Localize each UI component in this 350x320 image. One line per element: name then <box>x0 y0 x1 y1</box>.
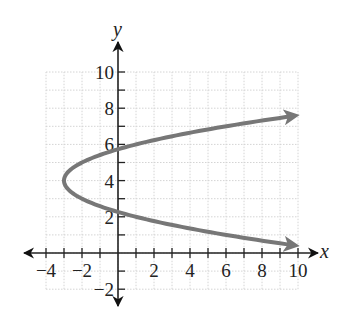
y-axis-label: y <box>111 18 122 41</box>
x-axis-label: x <box>319 240 329 262</box>
x-tick-label: 4 <box>185 260 195 281</box>
x-tick-label: 6 <box>221 260 231 281</box>
y-tick-label: −2 <box>94 279 114 300</box>
x-tick-label: 2 <box>149 260 159 281</box>
x-tick-label: −4 <box>36 260 57 281</box>
y-tick-label: 10 <box>95 62 114 83</box>
x-tick-label: 8 <box>257 260 267 281</box>
x-tick-label: −2 <box>72 260 92 281</box>
y-tick-label: 4 <box>105 171 115 192</box>
y-tick-label: 8 <box>105 98 115 119</box>
x-tick-label: 10 <box>289 260 308 281</box>
chart: −4−2246810−2246810 x y <box>0 0 350 320</box>
parabola-graph: −4−2246810−2246810 x y <box>0 0 350 320</box>
